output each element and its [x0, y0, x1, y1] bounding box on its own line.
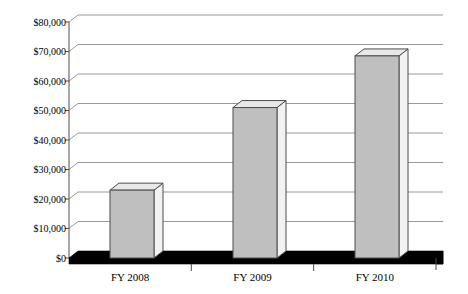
y-tick-label: $0: [56, 253, 66, 264]
x-tick-label: FY 2008: [111, 271, 150, 283]
gridline-depth-connector: [69, 15, 78, 22]
x-tick-label: FY 2009: [233, 271, 272, 283]
chart-canvas: $0$10,000$20,000$30,000$40,000$50,000$60…: [0, 0, 468, 294]
y-tick-label-group: $0$10,000$20,000$30,000$40,000$50,000$60…: [34, 17, 67, 264]
bar-front-face: [110, 190, 154, 258]
bar-side-face: [277, 101, 286, 258]
bar-fy-2008[interactable]: [110, 183, 163, 258]
gridline-depth-connector: [69, 222, 78, 229]
bar-top-face: [233, 101, 286, 108]
bar-side-face: [399, 49, 408, 258]
bar-top-face: [110, 183, 163, 190]
gridline-depth-connector: [69, 104, 78, 111]
y-tick-label: $50,000: [34, 105, 67, 116]
bar-front-face: [355, 56, 399, 258]
gridline-depth-connector: [69, 45, 78, 52]
gridline-depth-connector: [69, 133, 78, 140]
y-tick-label: $40,000: [34, 135, 67, 146]
y-tick-label: $60,000: [34, 76, 67, 87]
gridline-depth-connector: [69, 192, 78, 199]
floor-front-face: [69, 258, 443, 264]
bar-chart: $0$10,000$20,000$30,000$40,000$50,000$60…: [0, 0, 468, 294]
y-tick-label: $80,000: [34, 17, 67, 28]
y-tick-label: $10,000: [34, 223, 67, 234]
bar-top-face: [355, 49, 408, 56]
bars-group: [110, 49, 408, 258]
bar-fy-2010[interactable]: [355, 49, 408, 258]
x-tick-label: FY 2010: [356, 271, 395, 283]
depth-connector-group: [69, 15, 78, 229]
bar-fy-2009[interactable]: [233, 101, 286, 258]
bar-side-face: [154, 183, 163, 258]
gridline-depth-connector: [69, 163, 78, 170]
y-tick-label: $20,000: [34, 194, 67, 205]
gridline-depth-connector: [69, 74, 78, 81]
y-tick-label: $30,000: [34, 164, 67, 175]
x-tick-group: [191, 264, 313, 271]
x-tick-label-group: FY 2008FY 2009FY 2010: [111, 271, 395, 283]
bar-front-face: [233, 108, 277, 258]
y-tick-label: $70,000: [34, 46, 67, 57]
